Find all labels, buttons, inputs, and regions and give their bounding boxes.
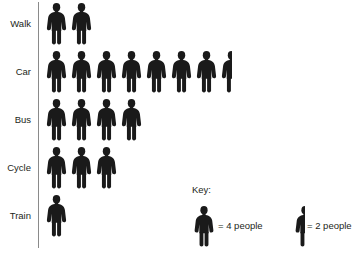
- row-figures-walk: [44, 0, 94, 48]
- key-label-full: = 4 people: [218, 220, 263, 232]
- person-icon: [194, 51, 219, 93]
- row-figures-cycle: [44, 144, 119, 192]
- person-icon: [44, 195, 69, 237]
- chart-key: Key: = 4 people = 2 people: [192, 184, 364, 254]
- person-icon: [94, 99, 119, 141]
- person-icon: [44, 3, 69, 45]
- key-label-half: = 2 people: [307, 220, 352, 232]
- person-icon-half: [219, 51, 232, 93]
- person-icon: [119, 51, 144, 93]
- key-entry-half: = 2 people: [293, 202, 352, 250]
- row-figures-car: [44, 48, 232, 96]
- person-icon: [94, 147, 119, 189]
- pictogram-row-walk: Walk: [0, 0, 364, 48]
- row-label-cycle: Cycle: [0, 144, 31, 192]
- person-icon: [192, 206, 216, 247]
- key-title: Key:: [192, 184, 211, 195]
- person-icon: [69, 99, 94, 141]
- person-icon: [144, 51, 169, 93]
- pictogram-chart: Walk Car Bus Cycle Train Key: = 4 people…: [0, 0, 364, 254]
- person-icon: [94, 51, 119, 93]
- person-icon: [69, 51, 94, 93]
- key-entry-full: = 4 people: [192, 202, 263, 250]
- person-icon: [169, 51, 194, 93]
- row-label-car: Car: [0, 48, 31, 96]
- pictogram-row-car: Car: [0, 48, 364, 96]
- row-figures-bus: [44, 96, 144, 144]
- person-icon: [69, 147, 94, 189]
- person-icon: [119, 99, 144, 141]
- person-icon-half: [293, 206, 305, 247]
- row-label-bus: Bus: [0, 96, 31, 144]
- person-icon: [44, 51, 69, 93]
- row-label-walk: Walk: [0, 0, 31, 48]
- row-figures-train: [44, 192, 69, 240]
- pictogram-row-bus: Bus: [0, 96, 364, 144]
- person-icon: [44, 147, 69, 189]
- person-icon: [44, 99, 69, 141]
- row-label-train: Train: [0, 192, 31, 240]
- person-icon: [69, 3, 94, 45]
